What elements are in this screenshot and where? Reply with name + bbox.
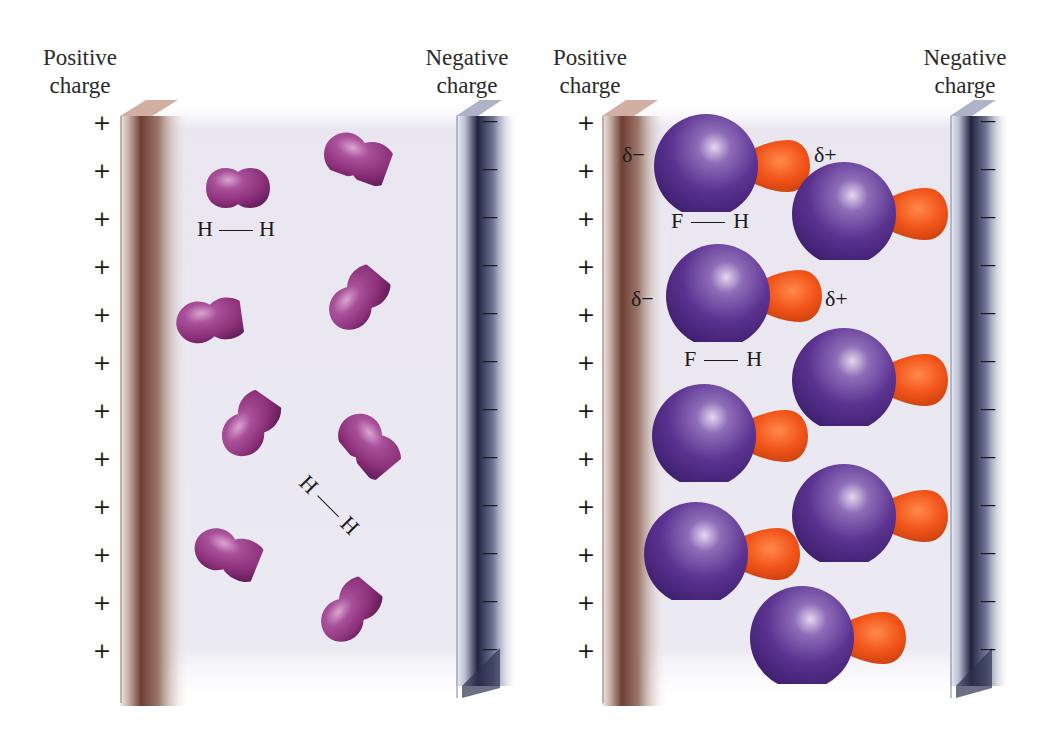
plus-sign: + — [574, 256, 598, 278]
plus-sign: + — [90, 592, 114, 614]
minus-sign: — — [478, 446, 502, 468]
minus-sign: — — [976, 254, 1000, 276]
minus-sign: — — [478, 494, 502, 516]
minus-sign: — — [976, 110, 1000, 132]
plus-sign: + — [574, 400, 598, 422]
hf-molecule — [652, 112, 810, 212]
label-line-1: Negative — [910, 44, 1020, 72]
minus-sign: — — [478, 638, 502, 660]
positive-plate — [118, 98, 198, 708]
partial-positive-label: δ+ — [825, 286, 848, 312]
plus-sign: + — [90, 544, 114, 566]
negative-charge-label: Negative charge — [910, 44, 1020, 100]
label-line-2: charge — [30, 72, 130, 100]
h2-molecule — [204, 166, 272, 210]
plus-sign: + — [90, 112, 114, 134]
plus-sign: + — [574, 640, 598, 662]
hf-bond-label: FH — [671, 208, 749, 234]
atom-f: F — [684, 346, 696, 371]
plus-sign: + — [574, 304, 598, 326]
partial-negative-label: δ− — [622, 142, 645, 168]
atom-h: H — [733, 208, 749, 233]
bond-line — [219, 230, 253, 231]
plus-sign: + — [574, 208, 598, 230]
hf-molecule — [748, 584, 906, 684]
minus-sign: — — [976, 590, 1000, 612]
label-line-1: Positive — [540, 44, 640, 72]
hf-molecule — [650, 382, 808, 482]
minus-sign: — — [976, 350, 1000, 372]
plus-sign: + — [90, 640, 114, 662]
plus-sign: + — [90, 496, 114, 518]
plus-sign: + — [574, 496, 598, 518]
minus-sign: — — [478, 590, 502, 612]
label-line-2: charge — [910, 72, 1020, 100]
partial-positive-label: δ+ — [814, 142, 837, 168]
atom-h: H — [197, 216, 213, 241]
negative-charge-label: Negative charge — [412, 44, 522, 100]
plus-sign: + — [90, 448, 114, 470]
hf-molecule — [790, 326, 948, 426]
atom-h: H — [746, 346, 762, 371]
plus-sign: + — [574, 352, 598, 374]
plus-sign: + — [90, 256, 114, 278]
bond-line — [704, 360, 738, 361]
atom-f: F — [671, 208, 683, 233]
plus-sign: + — [574, 448, 598, 470]
positive-charge-label: Positive charge — [540, 44, 640, 100]
positive-charge-label: Positive charge — [30, 44, 130, 100]
minus-sign: — — [478, 350, 502, 372]
plus-sign: + — [90, 304, 114, 326]
minus-sign: — — [976, 302, 1000, 324]
bond-line — [317, 496, 339, 518]
label-line-1: Positive — [30, 44, 130, 72]
minus-sign: — — [976, 206, 1000, 228]
h2-molecule — [171, 293, 244, 346]
minus-sign: — — [478, 254, 502, 276]
plus-sign: + — [90, 208, 114, 230]
minus-sign: — — [976, 446, 1000, 468]
hf-bond-label: FH — [684, 346, 762, 372]
h2-bond-label: HH — [197, 216, 275, 242]
plus-sign: + — [574, 160, 598, 182]
minus-sign: — — [976, 638, 1000, 660]
plus-sign: + — [574, 112, 598, 134]
label-line-1: Negative — [412, 44, 522, 72]
minus-sign: — — [478, 542, 502, 564]
plus-sign: + — [90, 352, 114, 374]
minus-sign: — — [976, 494, 1000, 516]
plus-sign: + — [90, 160, 114, 182]
plus-sign: + — [574, 592, 598, 614]
minus-sign: — — [478, 398, 502, 420]
plus-sign: + — [90, 400, 114, 422]
minus-sign: — — [976, 398, 1000, 420]
partial-negative-label: δ− — [631, 286, 654, 312]
minus-sign: — — [478, 110, 502, 132]
minus-sign: — — [478, 158, 502, 180]
minus-sign: — — [478, 206, 502, 228]
label-line-2: charge — [412, 72, 522, 100]
hf-molecule — [790, 462, 948, 562]
minus-sign: — — [976, 158, 1000, 180]
bond-line — [691, 222, 725, 223]
label-line-2: charge — [540, 72, 640, 100]
minus-sign: — — [478, 302, 502, 324]
minus-sign: — — [976, 542, 1000, 564]
plus-sign: + — [574, 544, 598, 566]
atom-h: H — [259, 216, 275, 241]
